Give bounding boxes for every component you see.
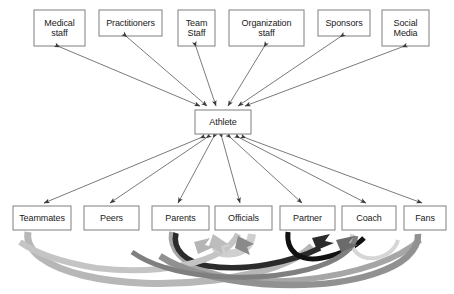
edge-athlete-partner bbox=[231, 138, 302, 203]
box-partner[interactable] bbox=[280, 206, 335, 230]
box-fans[interactable] bbox=[404, 206, 446, 230]
edge-social-media-athlete bbox=[245, 47, 402, 106]
edges-top bbox=[60, 37, 402, 106]
box-teammates[interactable] bbox=[13, 206, 71, 230]
box-team-staff[interactable] bbox=[178, 10, 215, 46]
edge-athlete-parents bbox=[178, 138, 213, 203]
edge-athlete-officials bbox=[222, 138, 240, 203]
edge-medical-staff-athlete bbox=[60, 47, 200, 106]
edge-athlete-teammates bbox=[44, 138, 200, 203]
box-medical-staff[interactable] bbox=[34, 10, 85, 46]
edge-athlete-coach bbox=[240, 138, 366, 203]
edge-practitioners-athlete bbox=[127, 37, 207, 106]
diagram-canvas bbox=[0, 0, 454, 294]
edge-athlete-peers bbox=[110, 138, 206, 203]
edge-organization-staff-athlete bbox=[228, 47, 264, 106]
box-athlete[interactable] bbox=[195, 110, 251, 134]
top-row-boxes bbox=[34, 10, 429, 46]
box-sponsors[interactable] bbox=[318, 10, 370, 36]
curve-coach-arc bbox=[351, 234, 398, 258]
box-social-media[interactable] bbox=[382, 10, 429, 46]
edge-team-staff-athlete bbox=[196, 47, 216, 106]
edges-bottom bbox=[44, 138, 422, 203]
box-officials[interactable] bbox=[215, 206, 272, 230]
peer-curved-arrows bbox=[20, 232, 420, 285]
bottom-row-boxes bbox=[13, 206, 446, 230]
edge-sponsors-athlete bbox=[238, 37, 340, 106]
box-coach[interactable] bbox=[342, 206, 396, 230]
box-practitioners[interactable] bbox=[99, 10, 162, 36]
box-organization-staff[interactable] bbox=[229, 10, 304, 46]
box-parents[interactable] bbox=[152, 206, 209, 230]
box-peers[interactable] bbox=[84, 206, 139, 230]
network-diagram: Medical staff Practitioners Team Staff O… bbox=[0, 0, 454, 294]
edge-athlete-fans bbox=[246, 138, 422, 203]
